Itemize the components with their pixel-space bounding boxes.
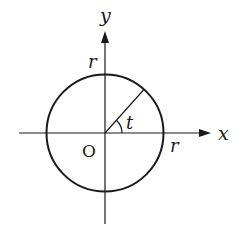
y-axis-arrow-icon <box>101 31 109 43</box>
origin-label: O <box>82 141 96 161</box>
circle-diagram: y r t x r O <box>0 0 241 227</box>
x-axis-arrow-icon <box>199 129 211 137</box>
x-axis-label: x <box>218 122 229 144</box>
radius-top-label: r <box>88 51 98 72</box>
angle-label: t <box>126 112 134 133</box>
radius-line <box>105 90 144 133</box>
angle-arc <box>116 120 122 133</box>
y-axis-label: y <box>99 4 111 26</box>
radius-right-label: r <box>170 135 180 156</box>
